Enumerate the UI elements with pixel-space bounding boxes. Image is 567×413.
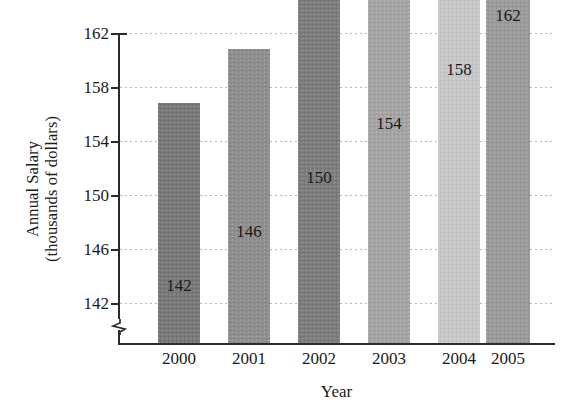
y-tick-label-154: 154 xyxy=(84,133,110,150)
bar-2001[interactable] xyxy=(228,49,270,343)
bar-value-2003: 154 xyxy=(359,115,419,132)
bar-value-2000: 142 xyxy=(149,277,209,294)
y-tick-146 xyxy=(111,249,120,251)
y-axis-line xyxy=(118,33,120,319)
y-tick-162 xyxy=(111,33,120,35)
bar-value-2004: 158 xyxy=(429,61,489,78)
bar-value-2001: 146 xyxy=(219,223,279,240)
y-axis-title: Annual Salary (thousands of dollars) xyxy=(23,64,61,314)
bar-texture xyxy=(228,49,270,343)
bar-value-2002: 150 xyxy=(289,169,349,186)
axis-break-icon xyxy=(111,319,129,335)
y-tick-142 xyxy=(111,303,120,305)
y-tick-150 xyxy=(111,195,120,197)
x-tick-label-2001: 2001 xyxy=(215,350,283,368)
y-tick-label-158: 158 xyxy=(84,79,110,96)
bar-value-2005: 162 xyxy=(478,7,538,24)
bar-texture xyxy=(158,103,200,343)
y-tick-158 xyxy=(111,87,120,89)
bar-2004[interactable] xyxy=(438,0,480,343)
x-tick-label-2000: 2000 xyxy=(145,350,213,368)
y-axis-title-line-2: (thousands of dollars) xyxy=(42,64,61,314)
bar-texture xyxy=(438,0,480,343)
x-axis-line xyxy=(118,343,555,345)
y-axis-title-line-1: Annual Salary xyxy=(23,141,42,237)
y-tick-label-150: 150 xyxy=(84,187,110,204)
x-tick-label-2005: 2005 xyxy=(474,350,542,368)
bar-texture xyxy=(486,0,530,343)
y-tick-label-146: 146 xyxy=(84,241,110,258)
bar-2005[interactable] xyxy=(486,0,530,343)
bar-chart: Annual Salary (thousands of dollars) xyxy=(0,0,567,413)
y-tick-label-162: 162 xyxy=(84,25,110,42)
x-tick-label-2002: 2002 xyxy=(285,350,353,368)
bar-texture xyxy=(368,0,410,343)
y-tick-154 xyxy=(111,141,120,143)
bar-2003[interactable] xyxy=(368,0,410,343)
x-tick-label-2003: 2003 xyxy=(355,350,423,368)
x-axis-title: Year xyxy=(118,382,555,402)
bar-2000[interactable] xyxy=(158,103,200,343)
y-tick-label-142: 142 xyxy=(84,295,110,312)
